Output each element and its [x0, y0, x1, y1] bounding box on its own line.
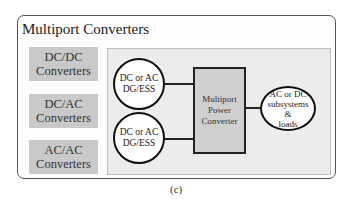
label: DG/ESS [120, 84, 159, 95]
ac-ac-converters-box: AC/ACConverters [29, 140, 98, 174]
label: DC or AC [120, 127, 159, 138]
label: Power [202, 105, 238, 116]
label: Multiport [202, 94, 238, 105]
label: loads [267, 119, 308, 129]
wire-source2-to-converter [164, 138, 194, 140]
label: Converter [202, 116, 238, 127]
label: AC/AC [36, 143, 91, 157]
label: DC or AC [120, 73, 159, 84]
figure-title: Multiport Converters [22, 21, 149, 38]
label: DC/DC [36, 50, 91, 64]
multiport-power-converter-box: Multiport Power Converter [193, 67, 246, 154]
dc-dc-converters-box: DC/DCConverters [29, 47, 98, 81]
label: & [267, 109, 308, 119]
wire-converter-to-load [245, 107, 261, 109]
label: Converters [36, 64, 91, 78]
source-circle-1: DC or ACDG/ESS [113, 58, 165, 110]
label: DG/ESS [120, 138, 159, 149]
source-circle-2: DC or ACDG/ESS [113, 112, 165, 164]
label: subsystems [267, 99, 308, 109]
label: AC or DC [267, 89, 308, 99]
dc-ac-converters-box: DC/ACConverters [29, 94, 98, 128]
wire-source1-to-converter [164, 83, 194, 85]
label: DC/AC [36, 97, 91, 111]
loads-ellipse: AC or DC subsystems & loads [260, 86, 316, 131]
label: Converters [36, 157, 91, 171]
label: Converters [36, 111, 91, 125]
figure-caption: (c) [170, 183, 182, 195]
